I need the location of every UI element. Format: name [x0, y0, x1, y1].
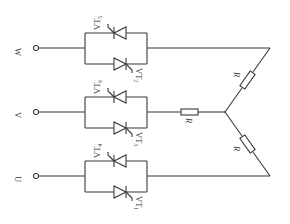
- resistor-w-label: R: [232, 71, 242, 78]
- thyristor-vt2: [114, 58, 132, 73]
- thyristor-vt5: [108, 24, 126, 39]
- thyristor-vt3: [114, 122, 132, 137]
- neutral-node: [224, 111, 226, 113]
- phase-w-branch: W VT5 VT2: [13, 16, 270, 83]
- phase-u-label: U: [13, 176, 23, 182]
- thyristor-vt1: [114, 186, 132, 201]
- phase-u-terminal: [34, 174, 39, 179]
- phase-w-label: W: [13, 48, 23, 56]
- phase-v-label: V: [13, 112, 23, 119]
- phase-v-terminal: [34, 110, 39, 115]
- resistor-v-label: R: [184, 117, 194, 124]
- thyristor-vt1-label: VT1: [133, 196, 144, 210]
- resistor-u-label: R: [232, 145, 242, 152]
- star-load: R R: [224, 48, 270, 176]
- thyristor-vt2-label: VT2: [133, 68, 144, 82]
- thyristor-vt4-label: VT4: [92, 144, 103, 158]
- phase-u-branch: U VT4 VT1: [13, 144, 270, 211]
- phase-v-branch: V VT6 VT3 R: [13, 80, 225, 147]
- resistor-v: [181, 109, 198, 115]
- circuit-diagram: W VT5 VT2 V: [0, 0, 290, 224]
- thyristor-vt5-label: VT5: [92, 16, 103, 30]
- thyristor-vt4: [108, 152, 126, 167]
- thyristor-vt3-label: VT3: [133, 132, 144, 146]
- thyristor-vt6: [108, 88, 126, 103]
- thyristor-vt6-label: VT6: [92, 80, 103, 94]
- phase-w-terminal: [34, 46, 39, 51]
